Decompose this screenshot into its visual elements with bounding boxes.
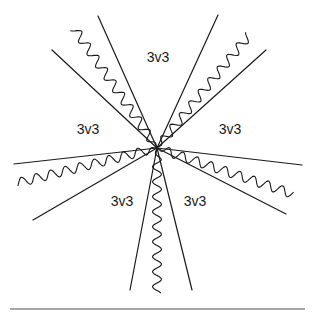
fermion-line-4-1 bbox=[157, 148, 192, 290]
fermion-line-3-0 bbox=[157, 148, 302, 165]
sector-label-right: 3v3 bbox=[219, 121, 242, 137]
sector-labels: 3v3 3v3 3v3 3v3 3v3 bbox=[77, 49, 242, 209]
sector-label-bottom-right: 3v3 bbox=[184, 193, 207, 209]
feynman-diagram: 3v3 3v3 3v3 3v3 3v3 bbox=[0, 0, 315, 315]
gluon-wave-4 bbox=[153, 148, 162, 293]
fermion-line-0-0 bbox=[52, 50, 157, 148]
sector-label-left: 3v3 bbox=[77, 121, 100, 137]
sector-label-top: 3v3 bbox=[147, 49, 170, 65]
gluon-wave-2 bbox=[18, 148, 157, 186]
fermion-line-1-0 bbox=[157, 15, 218, 148]
fermion-line-4-0 bbox=[130, 148, 157, 290]
fermion-line-1-1 bbox=[157, 50, 266, 148]
sector-label-bottom-left: 3v3 bbox=[111, 193, 134, 209]
gluon-wave-3 bbox=[157, 148, 294, 197]
wavy-lines bbox=[18, 31, 294, 293]
fermion-line-0-1 bbox=[98, 16, 157, 148]
